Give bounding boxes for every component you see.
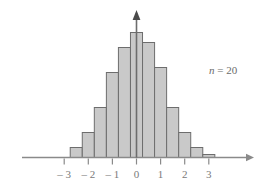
histogram-bars <box>70 33 215 158</box>
histogram-bar <box>191 148 203 158</box>
x-axis-ticks <box>64 159 209 165</box>
histogram-bar <box>167 108 179 158</box>
histogram-canvas: – 3– 2– 10123 <box>0 0 273 188</box>
x-axis-tick-label: 1 <box>158 168 164 180</box>
histogram-bar <box>70 148 82 158</box>
x-axis-tick-label: – 1 <box>105 168 120 180</box>
histogram-figure: – 3– 2– 10123 n = 20 <box>0 0 273 188</box>
x-axis-tick-label: – 2 <box>80 168 95 180</box>
x-axis-tick-label: 2 <box>182 168 188 180</box>
histogram-bar <box>155 68 167 158</box>
x-axis-tick-label: 3 <box>206 168 212 180</box>
histogram-bar <box>179 133 191 158</box>
histogram-bar <box>82 133 94 158</box>
x-axis-arrow-icon <box>246 154 254 161</box>
y-axis-arrow-icon <box>133 10 141 20</box>
x-axis-tick-labels: – 3– 2– 10123 <box>56 168 212 180</box>
sample-size-annotation: n = 20 <box>198 52 237 88</box>
histogram-bar <box>106 73 118 158</box>
histogram-bar <box>94 108 106 158</box>
histogram-bar <box>143 43 155 158</box>
sample-size-value: = 20 <box>215 64 238 76</box>
x-axis-tick-label: – 3 <box>56 168 71 180</box>
x-axis-tick-label: 0 <box>134 168 140 180</box>
histogram-bar <box>118 48 130 158</box>
